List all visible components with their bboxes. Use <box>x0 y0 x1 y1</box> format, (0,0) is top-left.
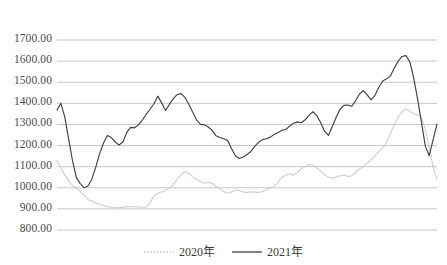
series-group <box>57 56 437 208</box>
line-chart: 1700.001600.001500.001400.001300.001200.… <box>0 0 447 265</box>
legend-line-sample-solid <box>232 247 262 257</box>
y-axis-tick-label: 1300.00 <box>0 116 52 128</box>
legend-label-2020: 2020年 <box>179 246 215 258</box>
y-axis-tick-label: 1000.00 <box>0 180 52 192</box>
chart-plot-area <box>0 0 447 265</box>
gridline-group <box>57 40 437 230</box>
legend-line-sample-dotted <box>144 247 174 257</box>
legend-item-2020[interactable]: 2020年 <box>144 246 215 258</box>
y-axis-tick-label: 1200.00 <box>0 138 52 150</box>
y-axis-tick-labels: 1700.001600.001500.001400.001300.001200.… <box>0 0 52 265</box>
legend-label-2021: 2021年 <box>267 246 303 258</box>
y-axis-tick-label: 900.00 <box>0 201 52 213</box>
y-axis-tick-label: 1400.00 <box>0 95 52 107</box>
legend-item-2021[interactable]: 2021年 <box>232 246 303 258</box>
y-axis-tick-label: 1700.00 <box>0 32 52 44</box>
y-axis-tick-label: 1100.00 <box>0 159 52 171</box>
chart-legend: 2020年 2021年 <box>0 242 447 262</box>
y-axis-tick-label: 1600.00 <box>0 53 52 65</box>
series-line-2021年 <box>57 56 437 188</box>
y-axis-tick-label: 800.00 <box>0 222 52 234</box>
y-axis-tick-label: 1500.00 <box>0 74 52 86</box>
